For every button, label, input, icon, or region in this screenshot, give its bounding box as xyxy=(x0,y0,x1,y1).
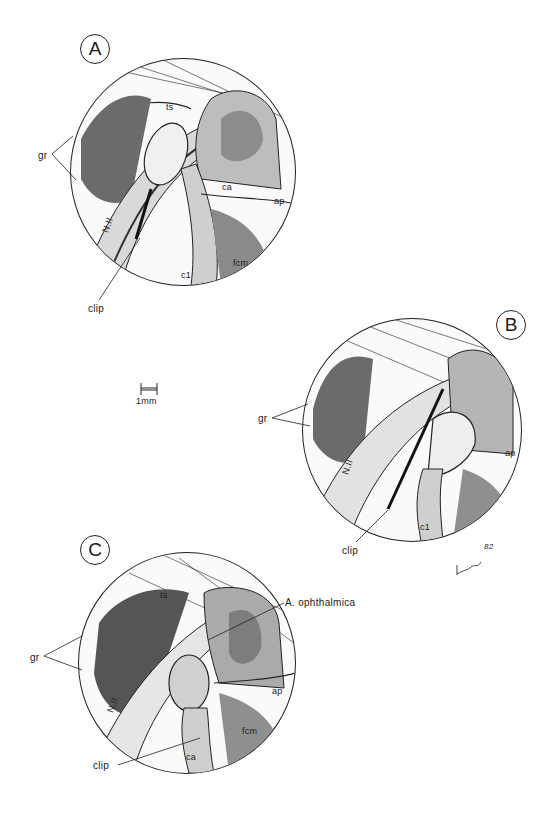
label-ts-c: ts xyxy=(160,590,168,600)
label-c1-b: c1 xyxy=(420,522,430,532)
scale-bar-icon xyxy=(139,382,159,396)
label-ca-a: ca xyxy=(222,182,232,192)
anatomy-drawing-c xyxy=(79,553,295,773)
label-gr-b: gr xyxy=(258,413,268,424)
label-clip-c: clip xyxy=(93,760,109,771)
label-artery-c: A. ophthalmica xyxy=(285,597,355,608)
anatomy-drawing-a xyxy=(71,59,295,285)
signature-year: 82 xyxy=(484,542,494,551)
anatomy-drawing-b xyxy=(303,319,521,541)
label-ca-c: ca xyxy=(186,752,196,762)
label-ap-b: ap xyxy=(505,448,516,458)
label-clip-b: clip xyxy=(342,545,358,556)
surgical-field-c xyxy=(78,552,296,774)
label-fcm-c: fcm xyxy=(242,726,257,736)
label-gr-a: gr xyxy=(38,150,48,161)
surgical-field-b xyxy=(302,318,522,542)
label-gr-c: gr xyxy=(30,652,40,663)
label-c1-a: c1 xyxy=(181,270,191,280)
label-ap-c: ap xyxy=(272,686,283,696)
label-ap-a: ap xyxy=(274,196,285,206)
label-clip-a: clip xyxy=(88,303,104,314)
scale-bar: 1mm xyxy=(136,382,166,406)
surgical-field-a xyxy=(70,58,296,286)
label-ts-a: ts xyxy=(166,102,174,112)
artist-signature: 82 xyxy=(454,540,494,584)
label-fcm-a: fcm xyxy=(233,258,248,268)
scale-bar-label: 1mm xyxy=(136,396,166,406)
